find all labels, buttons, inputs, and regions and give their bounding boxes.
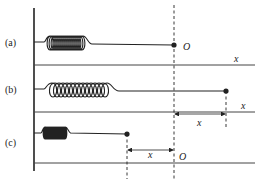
panel-label-c: (c) [5,137,16,149]
displacement-label-c: x [147,149,153,160]
mass-a [171,42,176,47]
panel-label-b: (b) [5,84,17,96]
axis-label-a: x [233,53,239,64]
origin-label-a: O [183,41,190,52]
spring-diagram: (a) (b) (c) O x x x x O [0,0,259,179]
spring-c [34,127,127,139]
origin-label-c: O [179,151,186,162]
spring-b [34,83,226,97]
spring-a [34,36,174,50]
axis-label-b: x [240,100,246,111]
panel-label-a: (a) [5,37,16,49]
displacement-label-b: x [196,117,202,128]
